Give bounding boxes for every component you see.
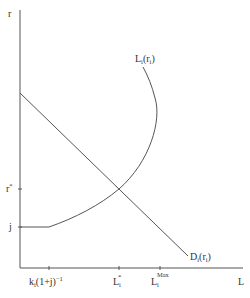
supply-curve-label: Li(ri)	[135, 53, 155, 65]
supply-curve	[20, 67, 157, 227]
tick-label-L-max: LiMax	[151, 271, 170, 288]
y-axis-label: r	[8, 8, 12, 19]
tick-label-j: j	[8, 221, 12, 232]
tick-label-L-star: Li*	[113, 273, 121, 288]
tick-label-k: ki(1+j)−1	[29, 275, 63, 288]
demand-curve-label: Di(ri)	[190, 251, 211, 263]
tick-label-r-star: r*	[6, 182, 13, 194]
diagram-canvas: r L r* j ki(1+j)−1 Li* LiMax Di(ri) Li(r…	[0, 0, 250, 298]
x-axis-label: L	[238, 276, 244, 287]
demand-curve	[20, 93, 188, 256]
